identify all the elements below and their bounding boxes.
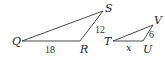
triangle-qrs [22,11,103,41]
triangle-tuv [113,25,153,41]
vertex-label-r: R [79,43,88,56]
vertex-label-q: Q [12,35,21,48]
side-label-qr: 18 [45,44,55,55]
side-label-rs: 12 [95,24,105,35]
similar-triangles-diagram: Q R S 18 12 T U V x 6 [0,0,165,60]
vertex-label-s: S [105,2,113,15]
vertex-label-t: T [104,35,113,48]
vertex-label-u: U [143,43,153,56]
vertex-label-v: V [154,14,163,27]
side-label-uv: 6 [149,29,154,40]
side-label-tu: x [126,42,132,53]
